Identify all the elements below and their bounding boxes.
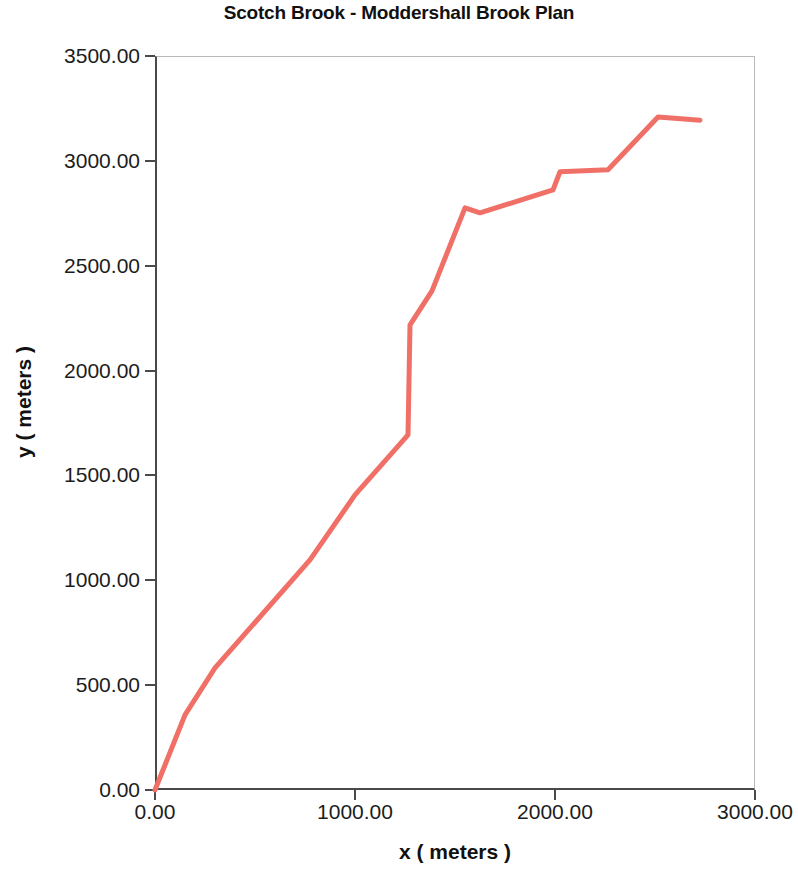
y-tick-label: 0.00 [0,778,140,802]
x-tick-label: 1000.00 [265,800,445,824]
series-polyline [155,117,700,790]
x-tick-label: 3000.00 [665,800,798,824]
y-tick-label: 1000.00 [0,568,140,592]
y-tick-label: 3500.00 [0,44,140,68]
x-tick-mark [754,790,756,800]
chart-container: Scotch Brook - Moddershall Brook Plan 0.… [0,0,798,877]
y-tick-label: 3000.00 [0,149,140,173]
y-tick-mark [145,579,155,581]
data-series-line [155,56,755,790]
y-tick-mark [145,474,155,476]
x-tick-label: 0.00 [65,800,245,824]
x-tick-mark [354,790,356,800]
x-tick-mark [554,790,556,800]
chart-title: Scotch Brook - Moddershall Brook Plan [0,2,798,24]
y-tick-label: 500.00 [0,673,140,697]
y-tick-mark [145,370,155,372]
y-tick-mark [145,55,155,57]
x-tick-label: 2000.00 [465,800,645,824]
y-tick-mark [145,160,155,162]
y-axis-title: y ( meters ) [12,272,36,532]
y-tick-mark [145,684,155,686]
y-tick-mark [145,265,155,267]
x-axis-title: x ( meters ) [155,840,755,864]
